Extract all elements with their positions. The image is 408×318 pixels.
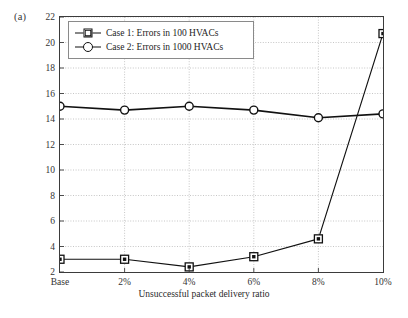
y-tick-label: 12: [46, 140, 56, 150]
y-tick-label: 20: [46, 38, 56, 48]
y-axis-tick-labels: 246810121416182022: [34, 16, 55, 273]
legend-circle-marker-icon: [75, 41, 101, 53]
legend-item-case-2: Case 2: Errors in 1000 HVACs: [73, 40, 249, 54]
y-tick-label: 4: [50, 242, 55, 252]
data-point-marker-core: [123, 258, 126, 261]
x-tick-label: 10%: [374, 277, 391, 287]
y-tick-label: 22: [46, 12, 56, 22]
legend-square-marker-icon: [75, 27, 101, 39]
data-point-marker: [185, 102, 193, 110]
x-tick-label: Base: [51, 277, 69, 287]
panel-label: (a): [14, 11, 26, 22]
legend-label-case-1: Case 1: Errors in 100 HVACs: [106, 28, 219, 38]
data-point-marker-core: [252, 255, 255, 258]
figure-container: (a) 246810121416182022 Base2%4%6%8%10% D…: [0, 0, 408, 318]
y-tick-label: 10: [46, 165, 56, 175]
series-line-1: [60, 34, 383, 267]
y-tick-label: 2: [50, 267, 55, 277]
y-tick-label: 8: [50, 191, 55, 201]
y-tick-label: 14: [46, 114, 56, 124]
data-point-marker-core: [381, 32, 383, 35]
data-point-marker-core: [317, 237, 320, 240]
legend-label-case-2: Case 2: Errors in 1000 HVACs: [106, 42, 223, 52]
y-tick-label: 18: [46, 63, 56, 73]
x-tick-label: 8%: [312, 277, 325, 287]
data-point-marker-core: [60, 258, 62, 261]
y-tick-label: 6: [50, 216, 55, 226]
chart-legend: Case 1: Errors in 100 HVACs Case 2: Erro…: [68, 21, 254, 59]
y-tick-label: 16: [46, 89, 56, 99]
data-point-marker: [379, 110, 383, 118]
data-point-marker: [121, 106, 129, 114]
x-tick-label: 2%: [118, 277, 131, 287]
plot-area: Case 1: Errors in 100 HVACs Case 2: Erro…: [59, 16, 384, 273]
data-point-marker: [250, 106, 258, 114]
x-tick-label: 4%: [183, 277, 196, 287]
x-axis-title: Unsuccessful packet delivery ratio: [0, 289, 408, 299]
legend-item-case-1: Case 1: Errors in 100 HVACs: [73, 26, 249, 40]
data-point-marker: [60, 102, 64, 110]
series-line-2: [60, 106, 383, 117]
x-tick-label: 6%: [247, 277, 260, 287]
data-point-marker: [314, 114, 322, 122]
